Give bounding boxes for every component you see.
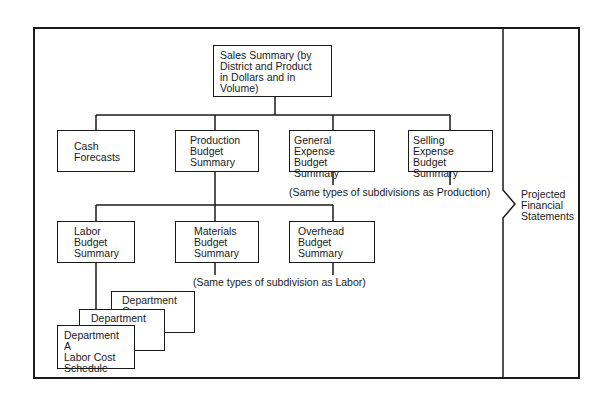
- selling-expense-node: Selling Expense Budget Summary: [408, 130, 493, 172]
- general-expense-node: General Expense Budget Summary: [289, 130, 375, 172]
- labor-subdivision-note: (Same types of subdivision as Labor): [193, 276, 366, 288]
- projected-financial-statements-label: Projected Financial Statements: [521, 189, 574, 222]
- department-a-node: Department A Labor Cost Schedule: [57, 325, 135, 369]
- production-subdivision-note: (Same types of subdivisions as Productio…: [289, 186, 490, 198]
- sales-summary-node: Sales Summary (by District and Product i…: [213, 45, 332, 97]
- labor-budget-node: Labor Budget Summary: [57, 221, 135, 263]
- cash-forecasts-node: Cash Forecasts: [57, 130, 135, 172]
- materials-budget-node: Materials Budget Summary: [175, 221, 259, 263]
- production-budget-node: Production Budget Summary: [175, 130, 259, 172]
- overhead-budget-node: Overhead Budget Summary: [289, 221, 375, 263]
